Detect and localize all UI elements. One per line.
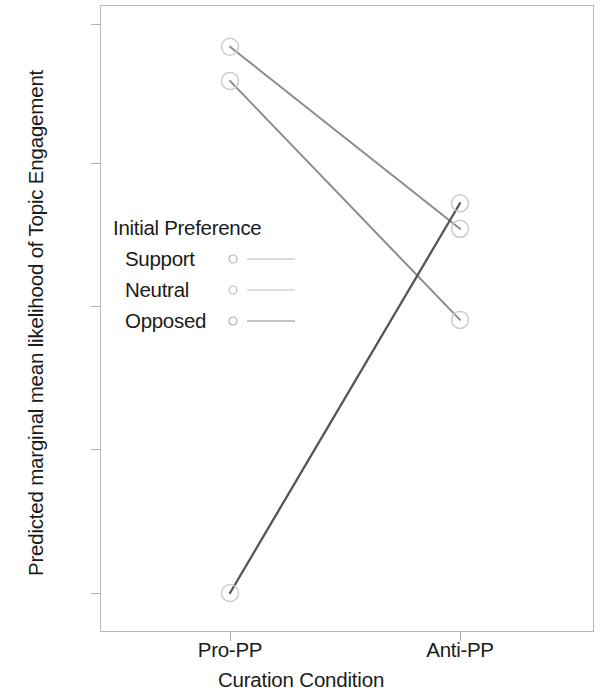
legend-item-opposed[interactable]: Opposed xyxy=(113,305,297,336)
open-circle-icon xyxy=(221,314,245,328)
legend-label-opposed: Opposed xyxy=(113,309,221,333)
legend-line-support xyxy=(245,254,297,264)
open-circle-icon xyxy=(221,283,245,297)
figure-container: Predicted marginal mean likelihood of To… xyxy=(0,0,602,698)
plot-lines-layer xyxy=(0,0,602,698)
legend: Initial Preference Support Neutral Oppos… xyxy=(113,216,297,336)
legend-item-support[interactable]: Support xyxy=(113,243,297,274)
legend-label-neutral: Neutral xyxy=(113,278,221,302)
legend-line-neutral xyxy=(245,285,297,295)
x-axis-title: Curation Condition xyxy=(0,668,602,692)
open-circle-icon xyxy=(221,252,245,266)
legend-title: Initial Preference xyxy=(113,216,297,240)
legend-item-neutral[interactable]: Neutral xyxy=(113,274,297,305)
legend-line-opposed xyxy=(245,316,297,326)
legend-label-support: Support xyxy=(113,247,221,271)
